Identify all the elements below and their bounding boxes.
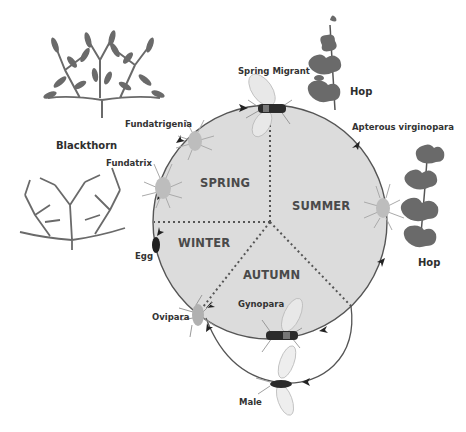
aphid-life-cycle-diagram: Blackthorn Hop Hop SPRING SUMMER AUTUMN … — [0, 0, 466, 432]
blackthorn-leafy-icon — [42, 29, 165, 118]
diagram-canvas — [0, 0, 466, 432]
stage-label-male: Male — [239, 397, 262, 407]
male-winged-aphid-icon — [256, 344, 299, 418]
hop-plant-right-icon — [401, 144, 445, 247]
stage-label-egg: Egg — [135, 251, 153, 261]
egg-icon — [152, 237, 160, 253]
season-label-winter: WINTER — [178, 236, 230, 250]
hop-right-label: Hop — [418, 257, 440, 268]
stage-label-fundatrix: Fundatrix — [106, 158, 152, 168]
stage-label-fundatrigenia: Fundatrigenia — [125, 119, 192, 129]
blackthorn-bare-icon — [20, 168, 125, 250]
stage-label-gynopara: Gynopara — [238, 299, 284, 309]
season-label-spring: SPRING — [200, 176, 250, 190]
blackthorn-label: Blackthorn — [56, 140, 117, 151]
season-label-summer: SUMMER — [292, 199, 350, 213]
hop-plant-top-icon — [308, 15, 341, 110]
stage-label-spring-migrant: Spring Migrant — [238, 66, 310, 76]
hop-top-label: Hop — [350, 86, 372, 97]
season-label-autumn: AUTUMN — [243, 268, 300, 282]
stage-label-apterous-virginopara: Apterous virginopara — [352, 122, 454, 132]
stage-label-ovipara: Ovipara — [152, 312, 189, 322]
